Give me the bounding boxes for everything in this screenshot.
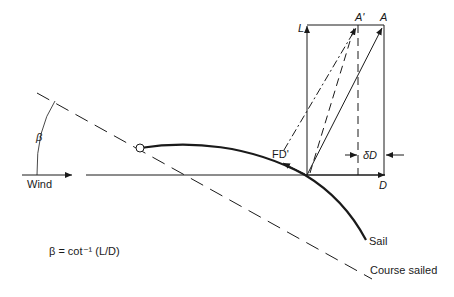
sail-curve [140,145,366,240]
label-fd: FD' [272,148,289,160]
label-a-prime: A' [354,11,365,23]
label-a: A [379,11,387,23]
label-beta: β [35,131,43,143]
sail-mast-point [136,144,144,152]
label-d: D [379,179,387,191]
label-l: L [298,22,304,34]
formula: β = cot⁻¹ (L/D) [49,245,120,257]
dashdot-vector [284,28,356,150]
resultant-a-prime-vector [310,28,354,173]
label-course-sailed: Course sailed [370,264,437,276]
fd-vector [283,163,305,174]
label-delta-d: δD [363,149,377,161]
label-wind: Wind [27,178,52,190]
sail-force-diagram: L A' A FD' δD D Wind β Sail Course saile… [0,0,454,297]
label-sail: Sail [369,235,387,247]
